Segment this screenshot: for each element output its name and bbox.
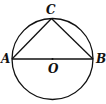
segment-bc xyxy=(52,19,94,60)
center-point-o xyxy=(52,58,54,60)
label-o: O xyxy=(48,62,59,76)
label-c: C xyxy=(46,3,56,17)
label-b: B xyxy=(95,52,106,66)
label-a: A xyxy=(0,52,10,66)
geometry-diagram: C A B O xyxy=(0,0,106,104)
